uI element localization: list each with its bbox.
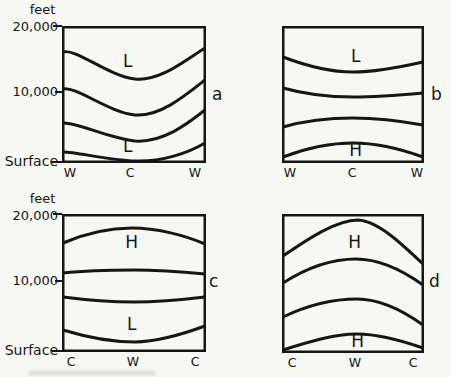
column-label-cold-center: C <box>126 167 135 180</box>
panel-d: H H C W C <box>282 214 424 353</box>
pressure-center-label-upper: L <box>123 53 133 70</box>
pressure-center-label-lower: L <box>123 138 133 155</box>
panel-letter-a: a <box>212 86 222 103</box>
y-axis-tick-20000-top: 20,000 <box>0 20 58 33</box>
pressure-surfaces-figure: feet 20,000 10,000 Surface feet 20,000 1… <box>0 0 451 377</box>
y-axis-tick-20000-bottom: 20,000 <box>0 209 58 222</box>
column-label-warm-center: W <box>349 357 361 370</box>
pressure-surface-line <box>63 270 205 274</box>
column-label-warm-left: W <box>284 167 296 180</box>
tick-mark <box>55 91 62 93</box>
pressure-surface-line <box>283 299 423 325</box>
pressure-center-label-lower: H <box>351 333 364 350</box>
panel-c: H L C W C <box>62 214 206 352</box>
pressure-center-label-upper: L <box>351 48 361 65</box>
y-axis-tick-10000-top: 10,000 <box>0 85 58 98</box>
y-axis-unit-top: feet <box>20 3 65 16</box>
panel-letter-b: b <box>431 86 442 103</box>
column-label-warm-right: W <box>411 167 423 180</box>
tick-mark <box>52 350 62 352</box>
pressure-center-label-lower: L <box>127 316 137 333</box>
pressure-center-label-lower: H <box>349 142 362 159</box>
panel-a: L L W C W <box>62 26 206 163</box>
panel-b: L H W C W <box>282 26 424 163</box>
panel-letter-d: d <box>429 273 440 290</box>
y-axis-tick-surface-bottom: Surface <box>0 343 58 357</box>
cropped-caption-remnant <box>28 371 156 375</box>
y-axis-unit-bottom: feet <box>20 192 65 205</box>
pressure-surface-line <box>63 143 205 161</box>
pressure-surface-line <box>283 88 423 97</box>
tick-mark <box>55 280 62 282</box>
pressure-center-label-upper: H <box>348 234 361 251</box>
tick-mark <box>53 25 62 27</box>
tick-mark <box>53 213 62 215</box>
pressure-surface-line <box>283 259 423 285</box>
tick-mark <box>52 161 62 163</box>
column-label-warm-right: W <box>189 167 201 180</box>
column-label-cold-left: C <box>67 356 76 369</box>
pressure-surface-line <box>63 297 205 302</box>
pressure-surface-line <box>63 80 205 115</box>
column-label-cold-right: C <box>191 356 200 369</box>
column-label-warm-left: W <box>64 167 76 180</box>
pressure-surface-line <box>283 118 423 127</box>
panel-letter-c: c <box>209 273 218 290</box>
y-axis-tick-10000-bottom: 10,000 <box>0 274 58 287</box>
y-axis-tick-surface-top: Surface <box>0 154 58 168</box>
pressure-center-label-upper: H <box>125 234 138 251</box>
column-label-cold-left: C <box>288 357 297 370</box>
column-label-cold-center: C <box>348 167 357 180</box>
pressure-surface-line <box>63 48 205 79</box>
column-label-warm-center: W <box>127 356 139 369</box>
column-label-cold-right: C <box>409 357 418 370</box>
